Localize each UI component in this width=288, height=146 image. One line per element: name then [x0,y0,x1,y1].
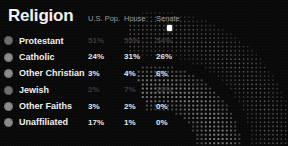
table-row[interactable]: Jewish2%7%13% [0,82,200,98]
legend-dot-icon [4,102,13,111]
cell-house: 31% [124,52,140,61]
row-label: Unaffiliated [19,117,68,127]
cell-senate: 54% [156,36,172,45]
cell-senate: 0% [156,102,168,111]
cell-senate: 26% [156,52,172,61]
screenshot-root: Religion U.S. Pop. House Senate Protesta… [0,0,288,146]
row-label: Other Christian [19,68,85,78]
table-row[interactable]: Other Christian3%4%6% [0,66,200,82]
table-row[interactable]: Unaffiliated17%1%0% [0,115,200,131]
legend-dot-icon [4,69,13,78]
column-header-senate: Senate [156,14,180,23]
cell-us-pop: 51% [88,36,104,45]
row-label: Catholic [19,52,55,62]
cell-senate: 13% [156,85,172,94]
page-title: Religion [8,6,73,26]
cell-house: 4% [124,69,136,78]
pointer-marker-icon[interactable] [167,25,172,31]
cell-house: 55% [124,36,140,45]
cell-us-pop: 17% [88,118,104,127]
legend-dot-icon [4,53,13,62]
row-label: Jewish [19,85,49,95]
column-header-house: House [124,14,146,23]
legend-dot-icon [4,86,13,95]
row-label: Protestant [19,36,64,46]
cell-house: 2% [124,102,136,111]
cell-us-pop: 24% [88,52,104,61]
cell-house: 1% [124,118,136,127]
cell-senate: 6% [156,69,168,78]
cell-us-pop: 3% [88,69,100,78]
religion-table: Protestant51%55%54%Catholic24%31%26%Othe… [0,33,200,131]
column-header-us-pop: U.S. Pop. [88,14,120,23]
table-row[interactable]: Catholic24%31%26% [0,49,200,65]
cell-house: 7% [124,85,136,94]
cell-us-pop: 3% [88,102,100,111]
legend-dot-icon [4,36,13,45]
row-label: Other Faiths [19,101,72,111]
cell-us-pop: 2% [88,85,100,94]
table-row[interactable]: Protestant51%55%54% [0,33,200,49]
table-row[interactable]: Other Faiths3%2%0% [0,99,200,115]
cell-senate: 0% [156,118,168,127]
religion-panel: Religion U.S. Pop. House Senate Protesta… [0,0,200,146]
legend-dot-icon [4,118,13,127]
